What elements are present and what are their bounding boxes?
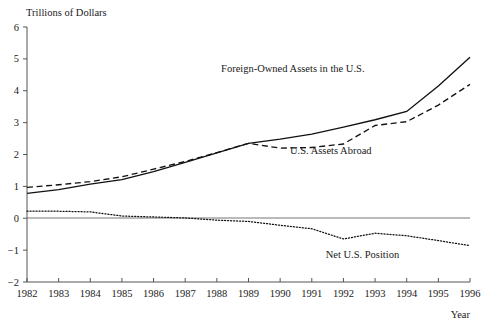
- x-tick-label-1987: 1987: [175, 288, 196, 299]
- x-tick-label-1991: 1991: [301, 288, 322, 299]
- y-axis: −2−10123456: [8, 22, 27, 288]
- y-tick-label-0: 0: [14, 213, 19, 224]
- y-tick-label-2: 2: [14, 149, 19, 160]
- x-tick-label-1982: 1982: [17, 288, 38, 299]
- economic-line-chart: Trillions of Dollars −2−10123456 1982198…: [0, 0, 496, 326]
- y-tick-label-3: 3: [14, 117, 19, 128]
- y-tick-label-5: 5: [14, 53, 19, 64]
- series-line-0: [27, 57, 470, 193]
- series-line-2: [27, 211, 470, 245]
- series-label-1: U.S. Assets Abroad: [290, 145, 372, 156]
- y-tick-label-4: 4: [14, 85, 20, 96]
- x-axis: 1982198319841985198619871988198919901991…: [17, 278, 481, 299]
- series-line-1: [27, 84, 470, 187]
- x-tick-label-1995: 1995: [428, 288, 449, 299]
- series-label-2: Net U.S. Position: [326, 249, 400, 260]
- chart-container: Trillions of Dollars −2−10123456 1982198…: [0, 0, 496, 326]
- x-axis-title: Year: [451, 309, 471, 320]
- series-annotations: Foreign-Owned Assets in the U.S.U.S. Ass…: [221, 63, 400, 260]
- x-tick-label-1992: 1992: [333, 288, 354, 299]
- series-group: [27, 57, 470, 245]
- y-tick-label-1: 1: [14, 181, 19, 192]
- y-tick-label--2: −2: [8, 277, 19, 288]
- x-tick-label-1985: 1985: [111, 288, 132, 299]
- x-tick-label-1996: 1996: [460, 288, 481, 299]
- x-tick-label-1988: 1988: [206, 288, 227, 299]
- series-label-0: Foreign-Owned Assets in the U.S.: [221, 63, 365, 74]
- y-axis-title: Trillions of Dollars: [26, 7, 107, 18]
- x-tick-label-1984: 1984: [80, 288, 102, 299]
- x-tick-label-1990: 1990: [270, 288, 291, 299]
- y-tick-label-6: 6: [14, 22, 19, 33]
- x-tick-label-1986: 1986: [143, 288, 164, 299]
- x-tick-label-1994: 1994: [396, 288, 418, 299]
- x-tick-label-1983: 1983: [48, 288, 69, 299]
- x-tick-label-1989: 1989: [238, 288, 259, 299]
- x-tick-label-1993: 1993: [365, 288, 386, 299]
- y-tick-label--1: −1: [8, 245, 19, 256]
